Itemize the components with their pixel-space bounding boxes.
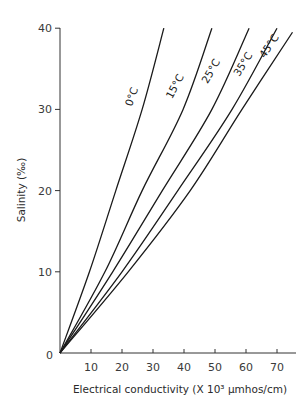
x-axis-title: Electrical conductivity (X 10³ µmhos/cm) — [73, 383, 287, 395]
x-tick-label: 30 — [146, 361, 160, 374]
series-line-2 — [60, 28, 249, 353]
y-tick-label: 10 — [38, 266, 52, 279]
x-tick-label: 70 — [270, 361, 284, 374]
axes: 10203040506070010203040 — [38, 22, 296, 374]
salinity-conductivity-chart: 10203040506070010203040 0°C15°C25°C35°C4… — [0, 0, 308, 412]
series-label-2: 25°C — [199, 57, 222, 85]
x-tick-label: 60 — [239, 361, 253, 374]
series-label-1: 15°C — [163, 72, 186, 101]
x-tick-label: 50 — [208, 361, 222, 374]
y-tick-label: 30 — [38, 103, 52, 116]
x-tick-label: 10 — [84, 361, 98, 374]
y-tick-label: 40 — [38, 22, 52, 35]
series-label-3: 35°C — [231, 50, 255, 78]
x-tick-label: 20 — [115, 361, 129, 374]
series-line-0 — [60, 28, 164, 353]
x-tick-label: 40 — [177, 361, 191, 374]
series-line-1 — [60, 28, 212, 353]
origin-label: 0 — [46, 349, 53, 362]
y-axis-title: Salinity (‰) — [15, 158, 27, 222]
y-tick-label: 20 — [38, 185, 52, 198]
series-label-0: 0°C — [122, 86, 140, 108]
